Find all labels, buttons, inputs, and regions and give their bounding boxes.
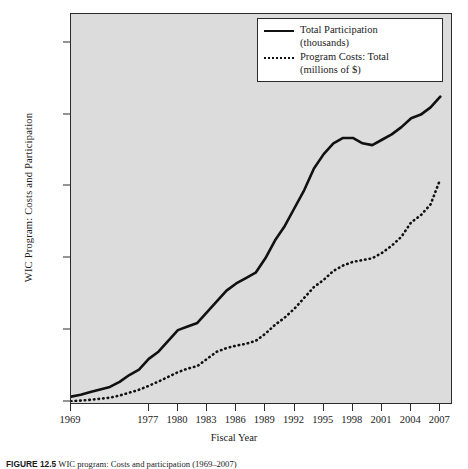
y-axis-tick-mark: [63, 401, 70, 402]
y-axis-title: WIC Program: Costs and Participation: [23, 18, 34, 378]
x-axis-tick-mark: [148, 404, 149, 411]
x-axis-tick-mark: [381, 404, 382, 411]
legend-swatch-solid-line-icon: [264, 24, 294, 37]
y-axis-tick-mark: [63, 257, 70, 258]
legend-label-line2: (millions of $): [300, 64, 389, 77]
chart-legend: Total Participation (thousands) Program …: [257, 18, 443, 82]
x-axis-tick-mark: [70, 404, 71, 411]
x-axis-tick-mark: [323, 404, 324, 411]
legend-label-line1: Program Costs: Total: [300, 51, 389, 62]
x-axis-tick-mark: [177, 404, 178, 411]
x-axis-tick-label: 1969: [40, 414, 100, 425]
legend-label-line1: Total Participation: [300, 24, 378, 35]
legend-item-program-costs: Program Costs: Total (millions of $): [264, 51, 435, 76]
x-axis-tick-mark: [206, 404, 207, 411]
y-axis-tick-mark: [63, 41, 70, 42]
x-axis-tick-mark: [235, 404, 236, 411]
y-axis-tick-mark: [63, 113, 70, 114]
x-axis-title: Fiscal Year: [0, 432, 468, 443]
series-line-program-costs: [71, 179, 440, 401]
series-line-total-participation: [71, 97, 440, 397]
x-axis-tick-label: 2007: [409, 414, 468, 425]
legend-swatch-dotted-line-icon: [264, 51, 294, 64]
figure-caption-text: WIC program: Costs and participation (19…: [58, 459, 236, 469]
figure-caption-label: FIGURE 12.5: [6, 459, 56, 469]
y-axis-tick-mark: [63, 329, 70, 330]
legend-item-total-participation: Total Participation (thousands): [264, 24, 435, 49]
figure-caption: FIGURE 12.5 WIC program: Costs and parti…: [6, 459, 462, 469]
legend-label-total-participation: Total Participation (thousands): [300, 24, 378, 49]
x-axis-tick-mark: [410, 404, 411, 411]
y-axis-tick-mark: [63, 185, 70, 186]
x-axis-tick-mark: [439, 404, 440, 411]
figure-container: WIC Program: Costs and Participation 02,…: [0, 0, 468, 469]
x-axis-tick-mark: [294, 404, 295, 411]
x-axis-tick-mark: [352, 404, 353, 411]
x-axis-tick-mark: [264, 404, 265, 411]
legend-label-program-costs: Program Costs: Total (millions of $): [300, 51, 389, 76]
legend-label-line2: (thousands): [300, 37, 378, 50]
